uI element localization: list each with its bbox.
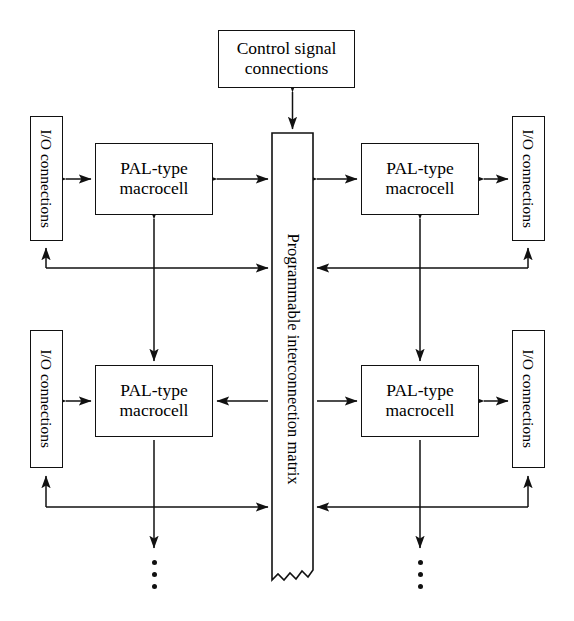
io-connections-top-right: I/O connections xyxy=(512,116,545,241)
macrocell-label: PAL-type macrocell xyxy=(386,381,455,420)
dot xyxy=(418,584,423,589)
matrix-label-wrap: Programmable interconnection matrix xyxy=(272,133,313,585)
control-signal-line2: connections xyxy=(245,58,329,78)
programmable-interconnection-matrix: Programmable interconnection matrix xyxy=(272,133,313,585)
pal-macrocell-top-left: PAL-type macrocell xyxy=(95,143,213,215)
control-signal-connections-box: Control signal connections xyxy=(218,30,355,88)
dot xyxy=(152,584,157,589)
pal-macrocell-bottom-left: PAL-type macrocell xyxy=(95,365,213,437)
ellipsis-dots-right xyxy=(415,560,425,589)
dot xyxy=(418,572,423,577)
control-signal-line1: Control signal xyxy=(237,38,337,58)
io-connections-label: I/O connections xyxy=(38,350,55,449)
macrocell-label: PAL-type macrocell xyxy=(120,159,189,198)
control-signal-label: Control signal connections xyxy=(233,39,341,78)
diagram-canvas: Control signal connections PAL-type macr… xyxy=(0,0,574,621)
macrocell-line1: PAL-type xyxy=(386,158,453,178)
macrocell-line1: PAL-type xyxy=(120,380,187,400)
macrocell-line2: macrocell xyxy=(120,178,189,198)
macrocell-line2: macrocell xyxy=(120,400,189,420)
dot xyxy=(152,572,157,577)
pal-macrocell-bottom-right: PAL-type macrocell xyxy=(361,365,479,437)
io-connections-bottom-right: I/O connections xyxy=(512,330,545,468)
dot xyxy=(152,560,157,565)
io-connections-label: I/O connections xyxy=(520,129,537,228)
macrocell-line1: PAL-type xyxy=(120,158,187,178)
macrocell-label: PAL-type macrocell xyxy=(386,159,455,198)
macrocell-line2: macrocell xyxy=(386,178,455,198)
io-connections-label: I/O connections xyxy=(520,350,537,449)
matrix-label: Programmable interconnection matrix xyxy=(283,233,303,484)
dot xyxy=(418,560,423,565)
ellipsis-dots-left xyxy=(149,560,159,589)
io-connections-top-left: I/O connections xyxy=(30,116,63,241)
io-connections-bottom-left: I/O connections xyxy=(30,330,63,468)
macrocell-line1: PAL-type xyxy=(386,380,453,400)
macrocell-line2: macrocell xyxy=(386,400,455,420)
io-connections-label: I/O connections xyxy=(38,129,55,228)
macrocell-label: PAL-type macrocell xyxy=(120,381,189,420)
pal-macrocell-top-right: PAL-type macrocell xyxy=(361,143,479,215)
